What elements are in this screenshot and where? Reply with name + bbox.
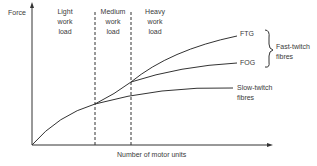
x-axis-arrow-icon — [267, 143, 273, 147]
curve-label-ftg: FTG — [240, 29, 254, 39]
curve-label-fog: FOG — [240, 58, 255, 68]
x-axis-label: Number of motor units — [117, 150, 186, 160]
curve-ftg-lower — [95, 82, 131, 104]
group-label-fast-twitch: Fast-twitch fibres — [276, 42, 310, 62]
y-axis-label: Force — [8, 8, 26, 18]
zone-label-heavy: Heavy work load — [140, 7, 170, 37]
curve-base — [32, 104, 95, 145]
brace-icon — [265, 30, 273, 67]
curve-slow-twitch — [95, 88, 233, 104]
zone-label-light: Light work load — [52, 7, 78, 37]
y-axis-arrow-icon — [30, 2, 34, 8]
curve-ftg — [131, 36, 237, 82]
curve-label-slow-twitch: Slow-twitch fibres — [237, 83, 272, 103]
curve-fog — [131, 63, 237, 82]
zone-label-medium: Medium work load — [97, 7, 129, 37]
